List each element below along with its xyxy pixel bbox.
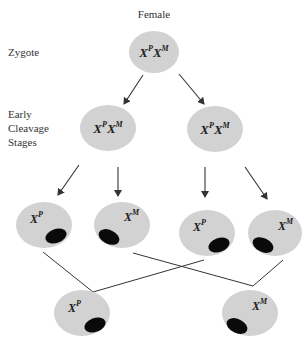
zygote-label: Zygote [8,46,39,58]
arrow-zygote-left [124,75,143,104]
cleavage-label-line3: Stages [8,136,37,148]
clone-cell-left: XP [54,290,110,336]
cleavage-cell-right: XPXM [187,106,243,152]
zygote-cell: XPXM [129,31,179,73]
diagram-title: Female [138,8,170,20]
cleavage-cell-left: XPXM [80,105,136,151]
daughter-cell-1: XP [16,202,72,248]
cleavage-label-line1: Early [8,108,32,120]
arrow-left-to-cell1 [58,165,79,195]
lineage-line-xm [133,253,283,286]
cleavage-label-line2: Cleavage [8,122,49,134]
daughter-cell-3: XP [179,210,235,256]
daughter-cell-4: XM [248,210,302,256]
x-inactivation-diagram: Female Zygote Early Cleavage Stages XPXM… [0,0,308,342]
daughter-cell-2: XM [94,202,150,248]
arrow-zygote-right [179,74,204,104]
lineage-line-xp [43,252,204,292]
clone-cell-right: XM [222,290,278,337]
arrow-right-to-cell4 [245,167,267,199]
